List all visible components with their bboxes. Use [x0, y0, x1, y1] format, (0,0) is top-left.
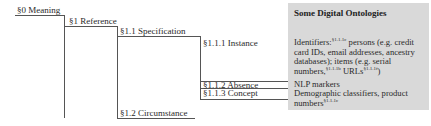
concept-text: Demographic classifiers, product numbers	[294, 88, 408, 108]
instance-description: Identifiers:§1.1.1c persons (e.g. credit…	[294, 38, 426, 76]
section-ref: §1.1.1b	[326, 66, 341, 71]
reference-underline	[64, 26, 117, 27]
section-ref: §1.1.1c	[324, 98, 339, 103]
node-specification: §1.1 Specification	[120, 26, 185, 36]
specification-branch	[200, 36, 201, 99]
meaning-branch	[64, 15, 65, 118]
panel-title: Some Digital Ontologies	[294, 8, 387, 18]
node-instance: §1.1.1 Instance	[203, 38, 258, 48]
node-circumstance: §1.2 Circumstance	[120, 108, 187, 118]
section-ref: §1.1.1c	[332, 37, 347, 42]
node-reference: §1 Reference	[69, 16, 117, 26]
meaning-underline	[15, 15, 64, 16]
concept-description: Demographic classifiers, product numbers…	[294, 89, 426, 108]
closing-paren: )	[378, 66, 381, 76]
node-concept: §1.1.3 Concept	[203, 88, 258, 98]
concept-bottom-line	[200, 99, 288, 100]
circumstance-underline	[117, 118, 195, 119]
ontologies-panel: Some Digital Ontologies Identifiers:§1.1…	[288, 3, 429, 110]
reference-branch	[117, 26, 118, 118]
identifiers-label: Identifiers:	[294, 37, 332, 47]
node-meaning: §0 Meaning	[17, 5, 60, 15]
specification-underline	[117, 36, 200, 37]
section-ref: §1.1.1f	[363, 66, 377, 71]
urls-text: URLs	[341, 66, 364, 76]
